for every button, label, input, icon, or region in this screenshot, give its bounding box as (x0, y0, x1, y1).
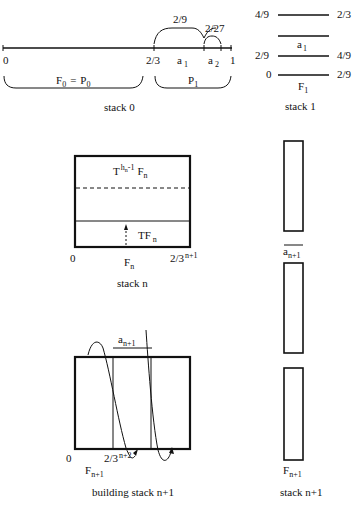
label-a1: a1 (177, 54, 188, 69)
tick-2-3: 2/3 (146, 54, 161, 66)
tick-1: 1 (230, 54, 236, 66)
label-a2: a2 (208, 54, 219, 69)
label-F0-eq-P0: F0=P0 (56, 74, 90, 89)
stack-n-tick-right: 2/3n+1 (170, 251, 198, 264)
building-base-label: Fn+1 (85, 464, 104, 479)
stack-n1-base-label: Fn+1 (283, 464, 302, 479)
stack1-label-2-9: 2/9 (255, 49, 270, 61)
building-tick-0: 0 (66, 452, 72, 464)
stack-n-tick-0: 0 (70, 252, 76, 264)
label-P1: P1 (188, 74, 198, 89)
tick-0: 0 (3, 54, 9, 66)
stack-n-top-label: Thn-1Fn (113, 163, 148, 180)
stack1-label-0: 0 (266, 68, 272, 80)
stack1-label-4-9b: 4/9 (337, 49, 352, 61)
caption-stack-n1: stack n+1 (280, 486, 323, 498)
stack-n-base-label: Fn (124, 256, 134, 271)
arrow-up-icon (124, 224, 128, 230)
stack-n1-bottom-box (284, 368, 303, 460)
caption-stack-n: stack n (117, 277, 148, 289)
stack-n1-top-box (284, 141, 303, 231)
brace-2-27 (204, 36, 221, 44)
stack-n-TFn-label: TFn (138, 229, 157, 244)
cut-stack-curve-2 (146, 330, 171, 460)
stack1-label-F1: F1 (298, 80, 308, 95)
label-2-9: 2/9 (173, 13, 188, 25)
caption-building-stack: building stack n+1 (92, 486, 174, 498)
caption-stack-1: stack 1 (285, 100, 316, 112)
stack1-label-4-9: 4/9 (255, 8, 270, 20)
building-tick-mid: 2/3n+2 (104, 451, 132, 464)
label-2-27: 2/27 (205, 22, 225, 34)
diagram-canvas: 0 2/3 1 a1 a2 2/9 2/27 F0=P0 P1 stack 0 … (0, 0, 353, 509)
stack1-label-2-3: 2/3 (337, 8, 352, 20)
cut-stack-curve-1 (88, 342, 135, 458)
building-label-an1: an+1 (118, 333, 135, 348)
caption-stack-0: stack 0 (104, 101, 135, 113)
stack-n1-sep-label: an+1 (283, 245, 300, 260)
stack0-number-line (3, 45, 232, 51)
stack1-label-2-9b: 2/9 (337, 68, 352, 80)
stack1-label-a1: a1 (297, 38, 307, 53)
building-box (75, 357, 190, 449)
stack-n1-middle-box (284, 263, 303, 353)
